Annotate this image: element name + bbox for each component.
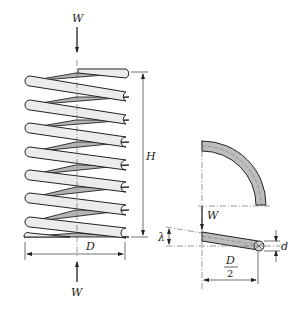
deflected-wire xyxy=(202,232,258,250)
height-label: H xyxy=(145,150,156,163)
diameter-label: D xyxy=(85,240,95,253)
deflection-label: λ xyxy=(157,231,165,244)
spring-side-view: W W H D xyxy=(24,12,156,299)
deflection-dimension: λ xyxy=(157,229,169,244)
half-diameter-denominator: 2 xyxy=(227,268,233,279)
wire-diameter-label: d xyxy=(281,240,288,253)
half-diameter-numerator: D xyxy=(225,254,235,267)
detail-load-label: W xyxy=(207,209,220,222)
load-label-top: W xyxy=(72,12,85,25)
spring-diagram: W W H D W xyxy=(0,0,307,310)
coil-detail-view: W λ d D 2 xyxy=(157,140,288,290)
half-diameter-dimension: D 2 xyxy=(204,252,258,284)
coil-quarter-arc xyxy=(202,141,266,205)
diameter-dimension: D xyxy=(25,240,125,260)
load-label-bottom: W xyxy=(71,286,84,299)
height-dimension: H xyxy=(131,72,156,237)
